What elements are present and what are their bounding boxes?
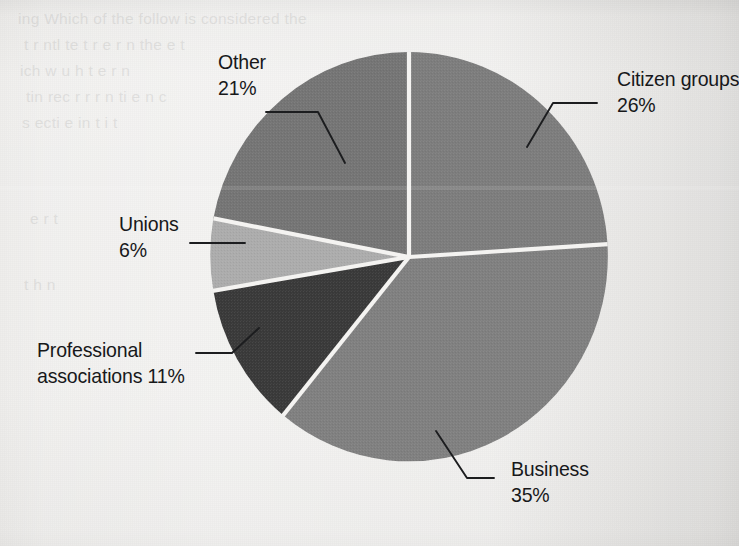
slice-label-unions-name: Unions — [119, 211, 179, 237]
slice-label-unions: Unions 6% — [119, 211, 179, 262]
slice-label-citizen-groups-value: 26% — [617, 92, 739, 118]
slice-label-professional-associations-value: associations 11% — [37, 363, 185, 389]
slice-label-professional-associations: Professional associations 11% — [37, 337, 185, 388]
slice-label-business-value: 35% — [511, 482, 589, 508]
slice-label-citizen-groups: Citizen groups 26% — [617, 66, 739, 117]
slice-label-other-name: Other — [218, 49, 266, 75]
slice-label-citizen-groups-name: Citizen groups — [617, 66, 739, 92]
slice-label-professional-associations-name: Professional — [37, 337, 185, 363]
slice-label-other: Other 21% — [218, 49, 266, 100]
slice-label-other-value: 21% — [218, 75, 266, 101]
scan-seam-line — [0, 186, 739, 190]
slice-label-unions-value: 6% — [119, 237, 179, 263]
slice-label-business: Business 35% — [511, 456, 589, 507]
slice-label-business-name: Business — [511, 456, 589, 482]
